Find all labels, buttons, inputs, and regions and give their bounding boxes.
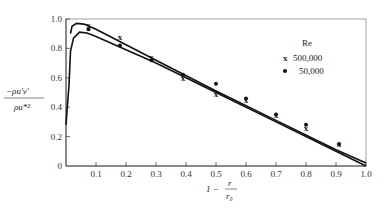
y-tick-label: 1.0 — [51, 14, 63, 24]
x-tick-label: 0.1 — [90, 169, 101, 179]
x-axis-ticks: 0.10.20.30.40.50.60.70.80.91.0 — [90, 162, 372, 179]
legend-label-500000: 500,000 — [293, 53, 323, 63]
dot-marker — [337, 142, 341, 146]
x-tick-label: 0.6 — [240, 169, 252, 179]
x-tick-label: 0.4 — [180, 169, 192, 179]
x-tick-label: 0.9 — [330, 169, 342, 179]
x-axis-title-prefix: 1 − — [206, 184, 219, 194]
x-axis-title-denominator: r₀ — [226, 191, 233, 201]
dot-marker — [244, 96, 248, 100]
x-axis-title: 1 − r r₀ — [206, 178, 237, 201]
dot-marker — [181, 73, 185, 77]
y-axis-title-denominator: ρu*² — [13, 102, 30, 112]
legend-title: Re — [302, 38, 312, 48]
legend-label-50000: 50,000 — [299, 66, 324, 76]
y-axis-title: −ρu′v′ ρu*² — [4, 86, 44, 112]
x-marker: x — [214, 89, 219, 99]
y-tick-label: 0.8 — [51, 43, 63, 53]
dot-marker — [214, 82, 218, 86]
x-tick-label: 0.2 — [120, 169, 131, 179]
x-tick-label: 0.8 — [300, 169, 312, 179]
dot-marker-icon — [283, 69, 287, 73]
y-tick-label: 0.4 — [51, 102, 63, 112]
x-tick-label: 0.7 — [270, 169, 282, 179]
x-tick-label: 1.0 — [360, 169, 372, 179]
x-axis-title-numerator: r — [228, 178, 232, 188]
y-axis-ticks: 00.20.40.60.81.0 — [51, 14, 70, 171]
x-tick-label: 0.5 — [210, 169, 222, 179]
y-axis-title-numerator: −ρu′v′ — [6, 86, 30, 96]
dot-marker — [274, 113, 278, 117]
x-tick-label: 0.3 — [150, 169, 162, 179]
dot-marker — [118, 43, 122, 47]
chart: 00.20.40.60.81.0 0.10.20.30.40.50.60.70.… — [0, 0, 392, 212]
legend: Re x 500,000 50,000 — [283, 38, 324, 76]
x-marker-icon: x — [283, 53, 288, 63]
y-tick-label: 0 — [58, 161, 63, 171]
y-tick-label: 0.6 — [51, 73, 63, 83]
x-marker: x — [118, 32, 123, 42]
dot-marker — [304, 123, 308, 127]
dot-marker — [87, 27, 91, 31]
dot-marker — [150, 58, 154, 62]
y-tick-label: 0.2 — [51, 132, 62, 142]
